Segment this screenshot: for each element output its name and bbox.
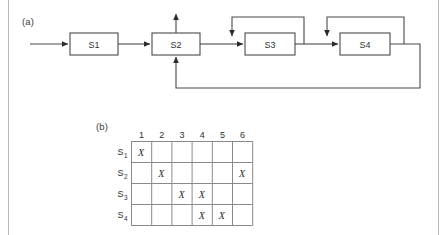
matrix-cell-r1-c1[interactable]: X — [132, 142, 152, 163]
matrix-cell-mark: X — [238, 168, 246, 179]
block-s3[interactable]: S3 — [245, 33, 295, 55]
matrix-cell-hitbox[interactable] — [172, 205, 192, 226]
matrix-cell-mark: X — [137, 147, 145, 158]
matrix-cell-mark: X — [218, 210, 226, 221]
block-s1-label: S1 — [88, 40, 99, 50]
matrix-cell-r1-c4[interactable] — [192, 142, 212, 163]
matrix-cells: XXXXXXX — [132, 142, 253, 226]
block-s4-label: S4 — [359, 40, 370, 50]
matrix-cell-hitbox[interactable] — [212, 142, 232, 163]
matrix-column-header-4: 4 — [200, 130, 205, 140]
matrix-column-header-5: 5 — [220, 130, 225, 140]
matrix-cell-hitbox[interactable] — [132, 184, 152, 205]
matrix-cell-hitbox[interactable] — [132, 205, 152, 226]
matrix-cell-r2-c2[interactable]: X — [152, 163, 172, 184]
matrix-cell-hitbox[interactable] — [192, 142, 212, 163]
figure-graphics: S1 S2 S3 S4 123456 S1S2S3S4 XXXXXXX — [0, 0, 448, 235]
matrix-row-header-subscript-1: 1 — [124, 152, 128, 159]
matrix-cell-hitbox[interactable] — [132, 163, 152, 184]
matrix-cell-hitbox[interactable] — [192, 163, 212, 184]
matrix-cell-r4-c3[interactable] — [172, 205, 192, 226]
matrix-cell-mark: X — [198, 210, 206, 221]
matrix-cell-hitbox[interactable] — [152, 142, 172, 163]
matrix-cell-r4-c2[interactable] — [152, 205, 172, 226]
figure-container: (a) (b) — [0, 0, 448, 235]
matrix-cell-r1-c3[interactable] — [172, 142, 192, 163]
matrix-cell-hitbox[interactable] — [152, 205, 172, 226]
block-s4[interactable]: S4 — [340, 33, 390, 55]
matrix-row-header-subscript-2: 2 — [124, 173, 128, 180]
matrix-cell-r4-c5[interactable]: X — [212, 205, 232, 226]
block-s3-label: S3 — [264, 40, 275, 50]
matrix-cell-r3-c2[interactable] — [152, 184, 172, 205]
matrix-column-header-3: 3 — [179, 130, 184, 140]
block-s1[interactable]: S1 — [70, 33, 118, 55]
matrix-cell-r2-c6[interactable]: X — [233, 163, 253, 184]
matrix-cell-hitbox[interactable] — [212, 163, 232, 184]
matrix-column-header-6: 6 — [240, 130, 245, 140]
matrix-cell-r3-c1[interactable] — [132, 184, 152, 205]
matrix-row-header-S3: S — [118, 189, 124, 199]
matrix-column-header-1: 1 — [139, 130, 144, 140]
matrix-row-headers: S1S2S3S4 — [118, 147, 129, 222]
matrix-cell-hitbox[interactable] — [233, 142, 253, 163]
matrix-cell-r2-c1[interactable] — [132, 163, 152, 184]
matrix-cell-r2-c4[interactable] — [192, 163, 212, 184]
matrix-cell-r1-c6[interactable] — [233, 142, 253, 163]
block-s2-label: S2 — [170, 40, 181, 50]
matrix-row-header-S1: S — [118, 147, 124, 157]
matrix-cell-mark: X — [198, 189, 206, 200]
matrix-cell-r3-c5[interactable] — [212, 184, 232, 205]
matrix-column-headers: 123456 — [139, 130, 245, 140]
matrix-cell-r1-c5[interactable] — [212, 142, 232, 163]
matrix-row-header-S2: S — [118, 168, 124, 178]
matrix-cell-hitbox[interactable] — [212, 184, 232, 205]
matrix-cell-hitbox[interactable] — [233, 205, 253, 226]
matrix-row-header-subscript-4: 4 — [124, 215, 128, 222]
matrix-cell-hitbox[interactable] — [172, 142, 192, 163]
matrix-cell-r2-c3[interactable] — [172, 163, 192, 184]
matrix-cell-r3-c4[interactable]: X — [192, 184, 212, 205]
matrix-cell-r3-c3[interactable]: X — [172, 184, 192, 205]
matrix-cell-r2-c5[interactable] — [212, 163, 232, 184]
matrix-column-header-2: 2 — [159, 130, 164, 140]
matrix-row-header-subscript-3: 3 — [124, 194, 128, 201]
matrix-cell-hitbox[interactable] — [152, 184, 172, 205]
matrix-cell-mark: X — [177, 189, 185, 200]
matrix-cell-r4-c6[interactable] — [233, 205, 253, 226]
matrix-row-header-S4: S — [118, 210, 124, 220]
matrix-cell-r4-c1[interactable] — [132, 205, 152, 226]
block-s2[interactable]: S2 — [152, 33, 200, 55]
matrix-cell-hitbox[interactable] — [233, 184, 253, 205]
matrix-cell-r1-c2[interactable] — [152, 142, 172, 163]
matrix-cell-r4-c4[interactable]: X — [192, 205, 212, 226]
matrix-cell-hitbox[interactable] — [172, 163, 192, 184]
matrix-cell-mark: X — [157, 168, 165, 179]
matrix-cell-r3-c6[interactable] — [233, 184, 253, 205]
